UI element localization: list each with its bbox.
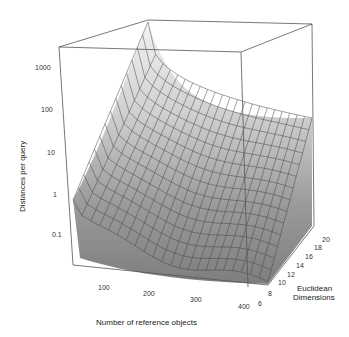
svg-text:16: 16 xyxy=(305,253,313,260)
svg-text:18: 18 xyxy=(314,244,322,251)
surface xyxy=(73,22,312,284)
svg-text:12: 12 xyxy=(287,271,295,278)
svg-text:100: 100 xyxy=(98,284,110,291)
svg-text:6: 6 xyxy=(258,300,262,307)
svg-text:10: 10 xyxy=(47,149,55,156)
svg-text:100: 100 xyxy=(41,106,53,113)
svg-text:400: 400 xyxy=(238,303,250,310)
z-axis-label: Distances per query xyxy=(18,141,27,212)
svg-text:1: 1 xyxy=(53,191,57,198)
svg-text:8: 8 xyxy=(268,290,272,297)
svg-text:0.1: 0.1 xyxy=(52,231,62,238)
z-axis-ticks: 1000 100 10 1 0.1 xyxy=(35,64,62,238)
y-axis-label-line2: Dimensions xyxy=(293,293,335,302)
svg-text:1000: 1000 xyxy=(35,64,51,71)
svg-text:10: 10 xyxy=(278,279,286,286)
x-axis-label: Number of reference objects xyxy=(96,318,197,327)
y-axis-label-line1: Euclidean xyxy=(297,284,332,293)
x-axis-ticks: 100 200 300 400 xyxy=(98,284,250,310)
svg-text:14: 14 xyxy=(296,262,304,269)
svg-text:300: 300 xyxy=(190,296,202,303)
svg-text:20: 20 xyxy=(322,236,330,243)
svg-text:200: 200 xyxy=(143,290,155,297)
surface-plot: 1000 100 10 1 0.1 Distances per query 10… xyxy=(0,0,349,337)
